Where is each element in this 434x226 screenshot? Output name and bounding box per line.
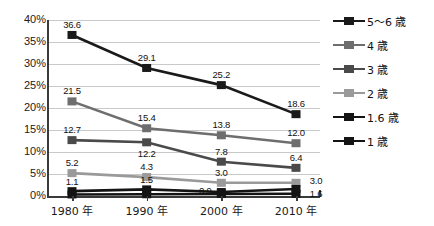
series-layer (48, 20, 320, 196)
legend-marker-icon (333, 111, 365, 123)
y-axis-tick-label: 30% (4, 58, 46, 69)
series-4 (68, 169, 301, 187)
legend-item-1[interactable]: 5〜6 歳 (333, 12, 407, 30)
data-point-label: 18.6 (287, 98, 305, 109)
data-point-label: 6.4 (290, 151, 303, 162)
legend-marker-icon (333, 63, 365, 75)
x-axis-line (47, 196, 320, 198)
data-point-label: 3.0 (215, 166, 228, 177)
legend-label: 4 歳 (367, 37, 389, 53)
legend-marker-icon (333, 39, 365, 51)
data-point-label: 12.0 (287, 127, 305, 138)
series-marker (292, 164, 301, 172)
y-axis-tick-label: 5% (4, 168, 46, 179)
data-point-label: 1.6 (310, 187, 323, 198)
y-axis-tick-label: 0% (4, 190, 46, 201)
x-axis-tick-label: 2010 年 (275, 202, 318, 218)
data-point-label: 29.1 (138, 51, 156, 62)
series-marker (142, 138, 151, 146)
series-marker (142, 124, 151, 132)
series-marker (142, 64, 151, 72)
legend-label: 2 歳 (367, 85, 389, 101)
series-marker (217, 81, 226, 89)
legend-marker-icon (333, 87, 365, 99)
x-axis-tickmark (221, 196, 223, 201)
legend-item-3[interactable]: 3 歳 (333, 60, 389, 78)
legend-label: 1 歳 (367, 133, 389, 149)
series-line (72, 189, 296, 192)
y-axis-tick-label: 25% (4, 80, 46, 91)
data-point-label: 7.8 (215, 145, 228, 156)
x-axis-tickmark (147, 196, 149, 201)
x-axis-tickmark (72, 196, 74, 201)
legend-item-5[interactable]: 1.6 歳 (333, 108, 399, 126)
series-marker (68, 31, 77, 39)
legend-item-6[interactable]: 1 歳 (333, 132, 389, 150)
x-axis-tick-label: 1990 年 (125, 202, 168, 218)
legend-marker-icon (333, 15, 365, 27)
legend-marker-icon (333, 135, 365, 147)
series-1 (68, 31, 301, 118)
x-axis-tickmark (296, 196, 298, 201)
series-marker (292, 110, 301, 118)
series-line (72, 194, 296, 195)
legend-label: 5〜6 歳 (367, 13, 407, 29)
data-point-label: 15.4 (138, 112, 156, 123)
legend-label: 3 歳 (367, 61, 389, 77)
series-line (72, 140, 296, 168)
data-point-label: 12.2 (138, 148, 156, 159)
x-axis-tick-label: 2000 年 (200, 202, 243, 218)
legend-item-4[interactable]: 2 歳 (333, 84, 389, 102)
x-axis-tick-label: 1980 年 (51, 202, 94, 218)
series-line (72, 173, 296, 183)
data-point-label: 36.6 (63, 18, 81, 29)
data-point-label: 13.8 (212, 119, 230, 130)
data-point-label: 5.2 (66, 157, 79, 168)
data-point-label: 12.7 (63, 124, 81, 135)
y-axis-tick-label: 15% (4, 124, 46, 135)
series-marker (68, 136, 77, 144)
series-line (72, 35, 296, 114)
data-point-label: 3.0 (310, 174, 323, 185)
legend-label: 1.6 歳 (367, 109, 399, 125)
y-axis-tick-label: 20% (4, 102, 46, 113)
data-point-label: 1.1 (66, 176, 79, 187)
series-marker (217, 158, 226, 166)
y-axis-tick-label: 40% (4, 14, 46, 25)
data-point-label: 25.2 (212, 69, 230, 80)
series-marker (217, 179, 226, 187)
data-point-label: 0.9 (199, 185, 212, 196)
y-axis-tick-label: 35% (4, 36, 46, 47)
series-line (72, 101, 296, 143)
series-marker (292, 139, 301, 147)
series-marker (68, 97, 77, 105)
data-point-label: 1.5 (140, 174, 153, 185)
plot-area: 36.629.125.218.621.515.413.812.012.712.2… (48, 20, 320, 196)
series-marker (217, 131, 226, 139)
chart-container: 0%5%10%15%20%25%30%35%40% 36.629.125.218… (0, 0, 434, 226)
chart-legend: 5〜6 歳4 歳3 歳2 歳1.6 歳1 歳 (333, 12, 434, 162)
y-axis: 0%5%10%15%20%25%30%35%40% (0, 0, 46, 226)
y-axis-tick-label: 10% (4, 146, 46, 157)
legend-item-2[interactable]: 4 歳 (333, 36, 389, 54)
data-point-label: 4.3 (140, 161, 153, 172)
series-3 (68, 136, 301, 172)
data-point-label: 21.5 (63, 85, 81, 96)
